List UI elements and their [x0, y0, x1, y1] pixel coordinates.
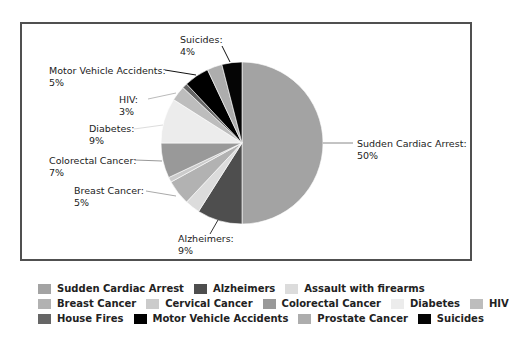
label-value: 9% [178, 245, 234, 257]
data-label-alzheimers: Alzheimers: 9% [178, 233, 234, 257]
leader-line-hiv [148, 93, 176, 99]
legend-swatch [418, 314, 431, 324]
legend-item-hiv[interactable]: HIV [470, 298, 509, 309]
legend-item-sudden-cardiac-arrest[interactable]: Sudden Cardiac Arrest [38, 283, 184, 294]
data-label-motor-vehicle-accidents: Motor Vehicle Accidents: 5% [49, 65, 166, 89]
label-name: Suicides: [180, 34, 223, 46]
legend-label: HIV [489, 298, 509, 309]
legend-item-cervical-cancer[interactable]: Cervical Cancer [146, 298, 252, 309]
legend-label: Cervical Cancer [165, 298, 252, 309]
leader-line-mva [165, 70, 196, 75]
legend-swatch [146, 299, 159, 309]
label-name: Sudden Cardiac Arrest: [357, 138, 467, 150]
legend-swatch [38, 299, 51, 309]
legend-row: Sudden Cardiac Arrest Alzheimers Assault… [38, 281, 478, 296]
data-label-colorectal-cancer: Colorectal Cancer: 7% [49, 155, 136, 179]
leader-line-colorectal [135, 160, 162, 161]
legend-label: Breast Cancer [57, 298, 136, 309]
legend-label: Diabetes [410, 298, 460, 309]
legend-item-suicides[interactable]: Suicides [418, 313, 484, 324]
data-label-suicides: Suicides: 4% [180, 34, 223, 58]
legend-row: Breast Cancer Cervical Cancer Colorectal… [38, 296, 478, 311]
legend-swatch [298, 314, 311, 324]
data-label-diabetes: Diabetes: 9% [89, 123, 134, 147]
label-value: 3% [119, 106, 138, 118]
label-name: Breast Cancer: [74, 185, 144, 197]
label-name: Motor Vehicle Accidents: [49, 65, 166, 77]
chart-legend: Sudden Cardiac Arrest Alzheimers Assault… [38, 281, 478, 326]
legend-swatch [134, 314, 147, 324]
legend-item-breast-cancer[interactable]: Breast Cancer [38, 298, 136, 309]
data-label-sudden-cardiac-arrest: Sudden Cardiac Arrest: 50% [357, 138, 467, 162]
legend-item-motor-vehicle-accidents[interactable]: Motor Vehicle Accidents [134, 313, 289, 324]
legend-row: House Fires Motor Vehicle Accidents Pros… [38, 311, 478, 326]
legend-item-prostate-cancer[interactable]: Prostate Cancer [298, 313, 408, 324]
leader-line-diabetes [134, 125, 163, 129]
legend-label: Prostate Cancer [317, 313, 408, 324]
label-value: 4% [180, 46, 223, 58]
legend-label: Suicides [437, 313, 484, 324]
legend-swatch [470, 299, 483, 309]
label-value: 5% [74, 197, 144, 209]
label-value: 7% [49, 167, 136, 179]
legend-swatch [285, 284, 298, 294]
label-value: 50% [357, 150, 467, 162]
legend-label: Sudden Cardiac Arrest [57, 283, 184, 294]
label-name: Colorectal Cancer: [49, 155, 136, 167]
legend-item-assault-with-firearms[interactable]: Assault with firearms [285, 283, 424, 294]
legend-swatch [38, 284, 51, 294]
legend-item-diabetes[interactable]: Diabetes [391, 298, 460, 309]
label-value: 5% [49, 77, 166, 89]
legend-label: Motor Vehicle Accidents [153, 313, 289, 324]
label-name: Diabetes: [89, 123, 134, 135]
label-name: Alzheimers: [178, 233, 234, 245]
legend-swatch [194, 284, 207, 294]
legend-label: Assault with firearms [304, 283, 424, 294]
legend-item-house-fires[interactable]: House Fires [38, 313, 124, 324]
leader-line-suicides [222, 46, 230, 62]
legend-item-colorectal-cancer[interactable]: Colorectal Cancer [263, 298, 381, 309]
legend-label: Alzheimers [213, 283, 275, 294]
legend-swatch [38, 314, 51, 324]
legend-label: House Fires [57, 313, 124, 324]
data-label-hiv: HIV: 3% [119, 94, 138, 118]
label-name: HIV: [119, 94, 138, 106]
legend-item-alzheimers[interactable]: Alzheimers [194, 283, 275, 294]
legend-swatch [263, 299, 276, 309]
data-label-breast-cancer: Breast Cancer: 5% [74, 185, 144, 209]
legend-swatch [391, 299, 404, 309]
leader-line-alz [210, 220, 218, 234]
leader-line-breast [146, 191, 176, 196]
legend-label: Colorectal Cancer [282, 298, 381, 309]
label-value: 9% [89, 135, 134, 147]
pie-slice-sudden-cardiac-arrest[interactable] [242, 62, 323, 224]
